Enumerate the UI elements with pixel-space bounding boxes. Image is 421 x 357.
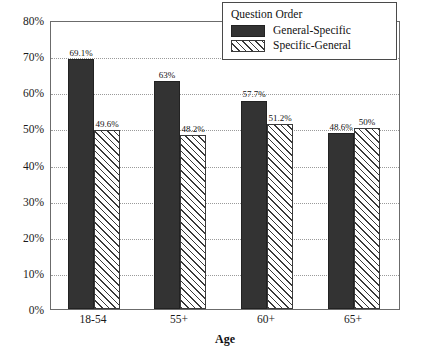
y-tick-label-50: 50% bbox=[0, 123, 44, 135]
y-tick-label-0: 0% bbox=[0, 304, 44, 316]
bar-65plus-general-specific bbox=[328, 133, 354, 309]
x-axis-title: Age bbox=[50, 332, 400, 347]
bar-label-18-54-general-specific: 69.1% bbox=[69, 48, 92, 58]
y-tick-label-20: 20% bbox=[0, 232, 44, 244]
legend-item-specific-general: Specific-General bbox=[231, 39, 388, 52]
bar-label-55plus-general-specific: 63% bbox=[159, 70, 176, 80]
bar-label-60plus-general-specific: 57.7% bbox=[242, 89, 265, 99]
bar-label-18-54-specific-general: 49.6% bbox=[95, 119, 118, 129]
bar-65plus-specific-general bbox=[354, 128, 380, 309]
y-tick-label-10: 10% bbox=[0, 268, 44, 280]
bar-60plus-specific-general bbox=[267, 124, 293, 309]
legend-label-general-specific: General-Specific bbox=[273, 24, 351, 37]
y-tick-label-40: 40% bbox=[0, 160, 44, 172]
plot-area: 69.1% 49.6% 63% 48.2% 57.7% 51.2% 48.6% … bbox=[50, 21, 400, 310]
legend-item-general-specific: General-Specific bbox=[231, 24, 388, 37]
y-tick-label-30: 30% bbox=[0, 196, 44, 208]
bar-label-55plus-specific-general: 48.2% bbox=[181, 124, 204, 134]
bar-18-54-specific-general bbox=[94, 130, 120, 309]
y-tick-label-70: 70% bbox=[0, 51, 44, 63]
y-axis: 80% 70% 60% 50% 40% 30% 20% 10% 0% bbox=[0, 21, 44, 310]
x-tick-label-55plus: 55+ bbox=[170, 313, 188, 325]
legend-title: Question Order bbox=[231, 8, 388, 21]
bar-55plus-specific-general bbox=[180, 135, 206, 309]
y-tick-label-80: 80% bbox=[0, 15, 44, 27]
x-tick-label-18-54: 18-54 bbox=[80, 313, 107, 325]
bar-chart: 80% 70% 60% 50% 40% 30% 20% 10% 0% 69.1%… bbox=[0, 0, 421, 357]
y-tick-label-60: 60% bbox=[0, 87, 44, 99]
legend: Question Order General-Specific Specific… bbox=[222, 2, 397, 60]
bar-label-65plus-specific-general: 50% bbox=[359, 117, 376, 127]
legend-swatch-solid-dark-icon bbox=[231, 25, 265, 37]
bar-label-60plus-specific-general: 51.2% bbox=[268, 113, 291, 123]
x-tick-label-65plus: 65+ bbox=[344, 313, 362, 325]
gridline-60 bbox=[51, 94, 399, 95]
legend-swatch-diagonal-hatch-icon bbox=[231, 40, 265, 52]
legend-label-specific-general: Specific-General bbox=[273, 39, 351, 52]
x-axis: 18-54 55+ 60+ 65+ bbox=[50, 313, 400, 331]
bar-18-54-general-specific bbox=[68, 59, 94, 309]
x-tick-label-60plus: 60+ bbox=[257, 313, 275, 325]
bar-60plus-general-specific bbox=[241, 101, 267, 310]
bar-55plus-general-specific bbox=[154, 81, 180, 309]
bar-label-65plus-general-specific: 48.6% bbox=[329, 122, 352, 132]
